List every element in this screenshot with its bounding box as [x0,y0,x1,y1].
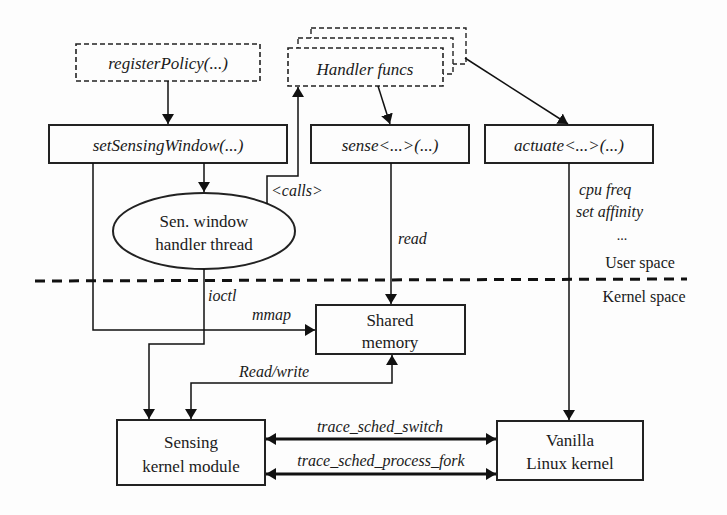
shared-memory-line2: memory [362,333,419,352]
handler-thread-node: Sen. window handler thread [113,193,295,269]
actuate-node: actuate<...>(...) [485,125,653,163]
handler-funcs-label: Handler funcs [316,60,414,79]
register-policy-node: registerPolicy(...) [76,44,260,81]
vanilla-kernel-line2: Linux kernel [526,454,614,473]
user-space-label: User space [605,254,675,272]
ioctl-label: ioctl [208,287,237,304]
actuate-op-cpu-freq: cpu freq [579,181,631,199]
trace-fork-label: trace_sched_process_fork [297,452,465,470]
vanilla-kernel-line1: Vanilla [546,431,595,450]
sensing-module-line1: Sensing [164,433,218,452]
edge-handlers-to-sense [378,86,390,124]
actuate-op-ellipsis: ... [617,228,628,243]
handler-funcs-node: Handler funcs [288,28,466,86]
actuate-label: actuate<...>(...) [514,136,624,155]
read-label: read [398,230,428,247]
calls-label: <calls> [271,182,323,199]
actuate-op-set-affinity: set affinity [576,203,644,221]
edge-handlers-to-actuate [465,58,568,124]
shared-memory-line1: Shared [366,311,414,330]
read-write-label: Read/write [238,363,309,380]
sense-label: sense<...>(...) [342,136,439,155]
set-sensing-window-label: setSensingWindow(...) [93,136,244,155]
kernel-space-label: Kernel space [602,288,685,306]
edge-thread-ioctl-module [149,269,204,419]
user-kernel-divider [35,279,687,281]
architecture-diagram: registerPolicy(...) Handler funcs setSen… [0,0,727,515]
handler-thread-line2: handler thread [155,235,253,254]
set-sensing-window-node: setSensingWindow(...) [49,125,287,163]
shared-memory-node: Shared memory [316,305,465,354]
vanilla-kernel-node: Vanilla Linux kernel [497,421,643,480]
handler-thread-line1: Sen. window [160,212,250,231]
trace-switch-label: trace_sched_switch [317,418,443,435]
sensing-module-line2: kernel module [142,457,240,476]
mmap-label: mmap [252,306,291,324]
register-policy-label: registerPolicy(...) [108,54,228,73]
sense-node: sense<...>(...) [311,125,469,163]
sensing-module-node: Sensing kernel module [117,420,265,485]
